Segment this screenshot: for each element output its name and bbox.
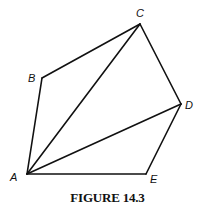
vertex-label-e: E bbox=[150, 173, 158, 185]
pentagon-edges bbox=[27, 24, 181, 174]
edge-de bbox=[146, 104, 181, 174]
edge-bc bbox=[42, 24, 140, 78]
edge-cd bbox=[140, 24, 181, 104]
pentagon-diagram: ABCDE bbox=[0, 0, 205, 215]
edge-ab bbox=[27, 78, 42, 174]
vertex-label-c: C bbox=[136, 7, 144, 19]
diagonal-ad bbox=[27, 104, 181, 174]
vertex-label-d: D bbox=[185, 99, 193, 111]
vertex-labels: ABCDE bbox=[9, 7, 193, 185]
figure-caption: FIGURE 14.3 bbox=[0, 190, 205, 206]
vertex-label-a: A bbox=[9, 171, 17, 183]
diagonal-ac bbox=[27, 24, 140, 174]
vertex-label-b: B bbox=[28, 72, 35, 84]
